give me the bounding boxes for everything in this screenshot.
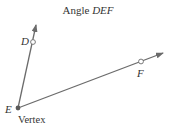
angle-diagram: Angle DEF D F E Vertex [0, 0, 173, 128]
label-F: F [136, 67, 144, 79]
label-D: D [20, 35, 29, 47]
diagram-title: Angle DEF [62, 4, 113, 16]
point-D [31, 40, 36, 45]
label-E: E [4, 103, 12, 115]
vertex-caption: Vertex [18, 114, 46, 125]
vertex-E [16, 106, 21, 111]
point-F [139, 59, 144, 64]
